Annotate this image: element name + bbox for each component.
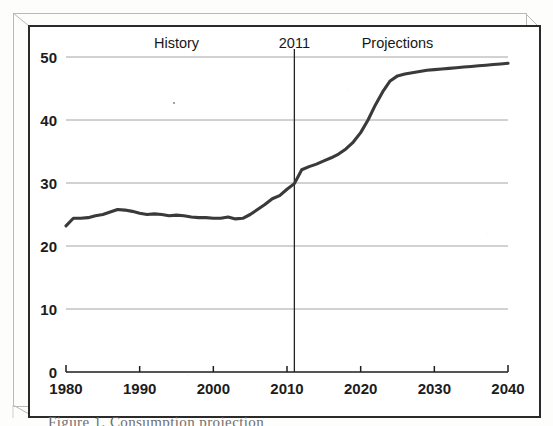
- y-axis-tick-label-30: 30: [40, 175, 57, 192]
- x-axis-tick-label-2030: 2030: [418, 380, 451, 397]
- scan-speck: [173, 102, 175, 104]
- data-series-value: [66, 63, 508, 226]
- divider-year-label: 2011: [279, 35, 310, 51]
- chart-plot-area: 010203040501980199020002010202020302040H…: [28, 25, 537, 414]
- y-axis-tick-label-40: 40: [40, 112, 57, 129]
- history-label: History: [154, 35, 200, 51]
- projections-label: Projections: [362, 35, 434, 51]
- line-chart: 010203040501980199020002010202020302040H…: [28, 25, 537, 414]
- x-axis-tick-label-2010: 2010: [270, 380, 303, 397]
- x-axis-tick-label-1990: 1990: [123, 380, 156, 397]
- x-axis-tick-label-2040: 2040: [491, 380, 524, 397]
- y-axis-tick-label-20: 20: [40, 238, 57, 255]
- y-axis-tick-label-50: 50: [40, 49, 57, 66]
- figure-caption-partial: Figure 1. Consumption projection: [48, 414, 548, 426]
- y-axis-tick-label-0: 0: [49, 364, 57, 381]
- x-axis-tick-label-2020: 2020: [344, 380, 377, 397]
- x-axis-tick-label-2000: 2000: [197, 380, 230, 397]
- y-axis-tick-label-10: 10: [40, 301, 57, 318]
- x-axis-tick-label-1980: 1980: [49, 380, 82, 397]
